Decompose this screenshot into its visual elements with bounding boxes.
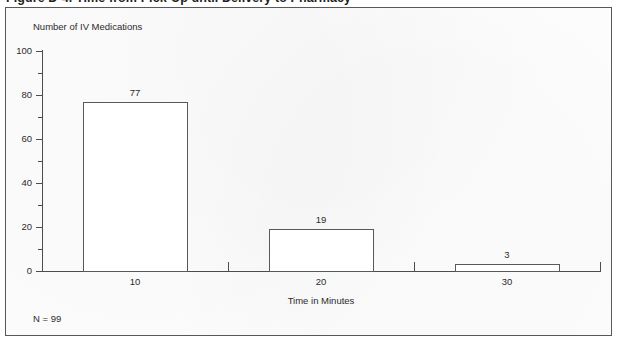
sample-size-note: N = 99: [33, 313, 61, 324]
x-axis-title: Time in Minutes: [42, 295, 600, 306]
scan-texture: [6, 8, 611, 335]
figure-frame: [5, 7, 612, 336]
figure-caption: Figure D-4. Time from Pick-Up until Deli…: [6, 0, 526, 5]
y-axis-title: Number of IV Medications: [33, 21, 142, 32]
